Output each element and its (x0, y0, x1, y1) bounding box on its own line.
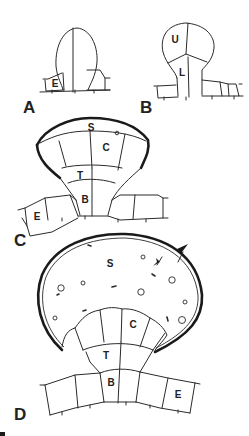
panel-d-vesicle (169, 277, 175, 283)
panel-d-vesicle (81, 281, 85, 285)
panel-c-cell-b: B (81, 194, 88, 205)
panel-a: E A (23, 28, 110, 117)
panel-d-particle (167, 317, 168, 321)
panel-d-b-walls (100, 372, 140, 402)
panel-c: S C T B E C (14, 118, 168, 250)
panel-c-label: C (14, 231, 26, 250)
panel-d-cap-base (83, 344, 153, 350)
panel-a-cell-e: E (52, 78, 59, 89)
panel-d-cell-t: T (103, 350, 109, 361)
scale-mark (0, 432, 5, 436)
panel-d-particle (83, 310, 86, 311)
panel-d-inner-wall (43, 238, 198, 348)
panel-a-head-outline (56, 28, 97, 90)
panel-d-particle (152, 274, 155, 276)
panel-d-label: D (14, 405, 26, 424)
panel-c-cell-e: E (34, 211, 41, 222)
panel-c-cell-s: S (88, 122, 95, 133)
panel-d-cell-b: B (107, 377, 114, 388)
panel-d-stalk-center-wall (118, 342, 121, 403)
panel-b-vertical-wall-upper (186, 23, 188, 54)
panel-b-cell-l: L (179, 67, 185, 78)
panel-b-cell-u: U (171, 34, 178, 45)
panel-c-epidermis-right (108, 195, 168, 220)
panel-b-vertical-wall-lower (188, 57, 189, 97)
panel-d-vesicle (138, 289, 144, 295)
panel-b: U L B (140, 23, 243, 117)
panel-d: S C T B E D (14, 234, 202, 424)
panel-d-vesicle (141, 255, 145, 259)
panel-a-e-wall (63, 73, 64, 90)
panel-b-ticks (164, 96, 234, 100)
panel-d-cell-e: E (175, 389, 182, 400)
panel-d-particle (112, 286, 116, 287)
panel-b-label: B (140, 98, 152, 117)
panel-b-epidermis (157, 80, 239, 98)
panel-c-cell-t: T (77, 170, 83, 181)
panel-c-subcuticular-space (40, 131, 146, 143)
panel-c-cuticle-left (37, 145, 60, 178)
figure-canvas: E A U L B (0, 0, 249, 436)
panel-d-particle (57, 294, 59, 295)
panel-b-stalk-left (177, 78, 178, 96)
panel-d-cell-s: S (107, 258, 114, 269)
panel-c-cell-c: C (102, 142, 109, 153)
panel-d-cell-c: C (129, 319, 136, 330)
panel-d-vesicle (183, 300, 187, 304)
panel-d-epidermis (45, 372, 195, 415)
panel-d-vesicle (179, 317, 186, 324)
panel-b-u-l-wall (168, 54, 207, 63)
panel-d-vesicle (58, 285, 64, 291)
panel-c-cap-walls (59, 131, 125, 170)
panel-a-label: A (23, 98, 35, 117)
panel-d-vesicle (53, 316, 57, 320)
panel-d-particle (88, 245, 91, 246)
panel-c-epidermis-left (18, 195, 78, 236)
